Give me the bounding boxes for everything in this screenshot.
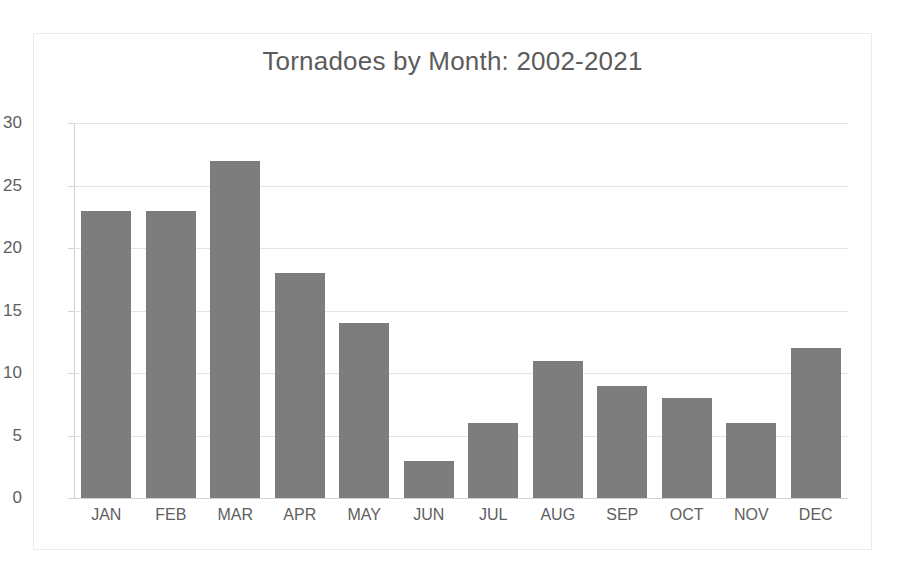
bar-slot [791, 123, 841, 498]
bar-slot [81, 123, 131, 498]
y-axis-tick-label: 10 [0, 363, 22, 383]
x-axis-tick-label: OCT [655, 506, 720, 524]
x-axis-tick-label: DEC [784, 506, 849, 524]
chart-title: Tornadoes by Month: 2002-2021 [34, 46, 871, 77]
x-axis-tick-label: AUG [526, 506, 591, 524]
bar[interactable] [662, 398, 712, 498]
x-axis-tick-label: MAR [203, 506, 268, 524]
x-axis-tick-label: JAN [74, 506, 139, 524]
y-axis-tick-labels: 051015202530 [0, 123, 22, 498]
bar-slot [533, 123, 583, 498]
bar-slot [210, 123, 260, 498]
bar[interactable] [339, 323, 389, 498]
bar-slot [468, 123, 518, 498]
x-axis-tick-label: JUL [461, 506, 526, 524]
y-axis-tick-label: 25 [0, 176, 22, 196]
bar[interactable] [468, 423, 518, 498]
y-axis-tick-label: 5 [0, 426, 22, 446]
bar-slot [726, 123, 776, 498]
bar-slot [662, 123, 712, 498]
y-axis-tick [68, 498, 74, 499]
bar[interactable] [533, 361, 583, 499]
bar[interactable] [726, 423, 776, 498]
bar-slot [146, 123, 196, 498]
plot-area [74, 123, 848, 498]
y-axis-tick-label: 15 [0, 301, 22, 321]
x-axis-tick-label: JUN [397, 506, 462, 524]
bar[interactable] [275, 273, 325, 498]
x-axis-tick-label: FEB [139, 506, 204, 524]
bar-slot [339, 123, 389, 498]
bar-slot [275, 123, 325, 498]
bar[interactable] [146, 211, 196, 499]
y-axis-tick-label: 30 [0, 113, 22, 133]
y-axis-tick-label: 0 [0, 488, 22, 508]
bar-slot [597, 123, 647, 498]
bar[interactable] [210, 161, 260, 499]
x-axis-tick-labels: JANFEBMARAPRMAYJUNJULAUGSEPOCTNOVDEC [74, 506, 848, 536]
bar[interactable] [791, 348, 841, 498]
bar[interactable] [597, 386, 647, 499]
bar-slot [404, 123, 454, 498]
x-axis-tick-label: MAY [332, 506, 397, 524]
x-axis-tick-label: APR [268, 506, 333, 524]
chart-figure: Tornadoes by Month: 2002-2021 0510152025… [33, 33, 872, 550]
bar[interactable] [81, 211, 131, 499]
gridline [74, 498, 848, 499]
bar-series [74, 123, 848, 498]
y-axis-tick-label: 20 [0, 238, 22, 258]
x-axis-tick-label: NOV [719, 506, 784, 524]
x-axis-tick-label: SEP [590, 506, 655, 524]
bar[interactable] [404, 461, 454, 499]
